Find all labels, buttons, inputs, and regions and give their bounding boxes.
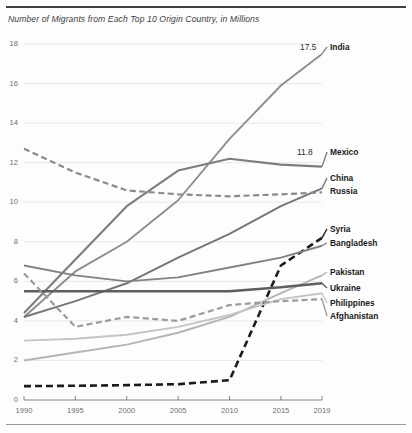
series-label-bangladesh: Bangladesh: [330, 238, 377, 248]
x-axis-tick-label: 2005: [158, 406, 198, 415]
y-axis-tick-label: 2: [2, 355, 18, 364]
y-axis-tick-label: 4: [2, 316, 18, 325]
chart-screenshot: Number of Migrants from Each Top 10 Orig…: [0, 0, 412, 433]
y-axis-tick-label: 14: [2, 118, 18, 127]
y-axis-tick-label: 6: [2, 276, 18, 285]
leader-line-pakistan: [322, 272, 327, 275]
series-label-russia: Russia: [330, 186, 357, 196]
series-label-india: India: [330, 42, 350, 52]
x-axis-tick-label: 2000: [107, 406, 147, 415]
y-axis-tick-label: 0: [2, 395, 18, 404]
series-value-mexico: 11.8: [297, 147, 313, 157]
series-value-india: 17.5: [300, 42, 316, 52]
series-line-russia: [24, 149, 322, 196]
y-axis-tick-label: 18: [2, 39, 18, 48]
leader-line-india: [322, 47, 327, 54]
y-axis-tick-label: 16: [2, 79, 18, 88]
line-chart-canvas: [0, 0, 412, 433]
series-line-mexico: [24, 159, 322, 313]
bottom-divider: [6, 424, 406, 425]
series-label-syria: Syria: [330, 224, 351, 234]
x-axis-tick-label: 2019: [302, 406, 342, 415]
series-label-afghanistan: Afghanistan: [330, 311, 378, 321]
series-label-mexico: Mexico: [330, 147, 358, 157]
series-label-pakistan: Pakistan: [330, 267, 364, 277]
x-axis-tick-label: 2015: [261, 406, 301, 415]
series-label-china: China: [330, 173, 353, 183]
x-axis-tick-label: 1995: [55, 406, 95, 415]
leader-line-mexico: [322, 152, 327, 167]
leader-line-ukraine: [322, 283, 327, 288]
y-axis-tick-label: 10: [2, 197, 18, 206]
leader-line-bangladesh: [322, 243, 327, 246]
series-line-china: [24, 188, 322, 317]
series-label-philippines: Philippines: [330, 298, 375, 308]
series-label-ukraine: Ukraine: [330, 283, 361, 293]
leader-line-china: [322, 178, 327, 188]
leader-line-syria: [322, 229, 327, 238]
series-line-ukraine: [24, 283, 322, 291]
x-axis-tick-label: 1990: [4, 406, 44, 415]
x-axis-tick-label: 2010: [210, 406, 250, 415]
y-axis-tick-label: 8: [2, 237, 18, 246]
y-axis-tick-label: 12: [2, 158, 18, 167]
